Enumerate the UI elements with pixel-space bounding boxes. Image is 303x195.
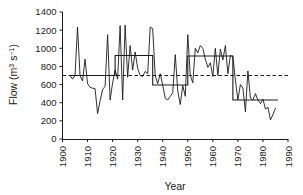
y-axis-tick-label: 600 [41,79,57,90]
x-axis-tick-label: 1990 [283,146,294,167]
x-axis-tick-label: 1950 [182,146,193,167]
x-axis-tick-label: 1980 [257,146,268,167]
annual-flow-line [70,25,275,120]
flow-time-series-chart: Flow (m3 s−1) 0200400600800100012001400 … [0,0,303,195]
chart-canvas: Flow (m3 s−1) 0200400600800100012001400 … [0,0,303,195]
x-axis-tick-label: 1920 [107,146,118,167]
y-axis-tick-labels: 0200400600800100012001400 [35,6,56,144]
y-axis-title-mid: s [7,56,19,64]
y-axis-tick-label: 200 [41,115,57,126]
x-axis-tick-label: 1940 [157,146,168,167]
y-axis-title-end: ) [7,44,19,48]
x-axis-tick-labels: 1900191019201930194019501960197019801990 [57,146,294,167]
y-axis-title: Flow (m3 s−1) [7,44,19,105]
y-axis-title-sup-neg1: −1 [8,47,15,55]
x-axis-tick-label: 1910 [82,146,93,167]
y-axis-tick-label: 1200 [35,25,56,36]
y-axis-title-main: Flow (m [7,67,19,105]
y-axis-tick-label: 1000 [35,43,56,54]
x-axis-tick-label: 1960 [207,146,218,167]
x-axis-tick-label: 1930 [132,146,143,167]
x-axis-title: Year [164,180,186,192]
y-axis-tick-label: 0 [51,133,56,144]
y-axis-tick-label: 800 [41,61,57,72]
y-axis-tick-label: 1400 [35,6,56,17]
svg-text:Flow (m3 s−1): Flow (m3 s−1) [7,44,19,105]
x-axis-tick-label: 1900 [57,146,68,167]
y-axis-tick-label: 400 [41,97,57,108]
x-axis-tick-label: 1970 [232,146,243,167]
